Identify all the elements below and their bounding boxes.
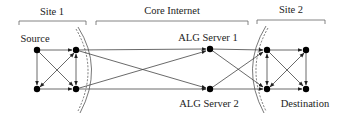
site2-bracket xyxy=(257,20,325,24)
network-diagram: Site 1 Core Internet Site 2 xyxy=(0,0,343,118)
site2-gateway-top-node xyxy=(264,47,270,53)
core-internet-label: Core Internet xyxy=(144,5,200,16)
source-label: Source xyxy=(20,33,49,44)
edges xyxy=(37,49,306,89)
alg-server-2-node xyxy=(207,86,213,92)
site1-boundary-arc xyxy=(76,27,92,113)
alg-server-2-label: ALG Server 2 xyxy=(179,98,238,109)
site2-top-right-node xyxy=(303,47,309,53)
site2-label: Site 2 xyxy=(279,4,303,15)
site2-boundary-arc xyxy=(252,26,268,113)
core-bracket xyxy=(96,21,248,25)
site1-bottom-left-node xyxy=(34,86,40,92)
destination-node xyxy=(303,86,309,92)
alg-server-1-node xyxy=(207,46,213,52)
destination-label: Destination xyxy=(281,98,330,109)
site1-gateway-top-node xyxy=(73,47,79,53)
site1-gateway-bottom-node xyxy=(73,86,79,92)
site1-label: Site 1 xyxy=(40,6,64,17)
site2-gateway-bottom-node xyxy=(264,86,270,92)
alg-server-1-label: ALG Server 1 xyxy=(178,32,237,43)
site1-bracket xyxy=(19,21,86,25)
source-node xyxy=(34,47,40,53)
